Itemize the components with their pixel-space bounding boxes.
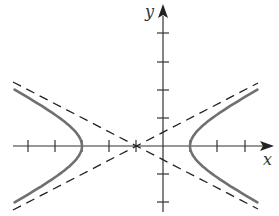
hyperbola-chart: x y — [0, 0, 279, 216]
y-axis-arrow-icon — [158, 4, 168, 18]
y-axis: y — [144, 2, 169, 212]
x-axis: x — [13, 140, 274, 169]
y-axis-label: y — [144, 2, 155, 21]
x-axis-label: x — [263, 150, 272, 169]
